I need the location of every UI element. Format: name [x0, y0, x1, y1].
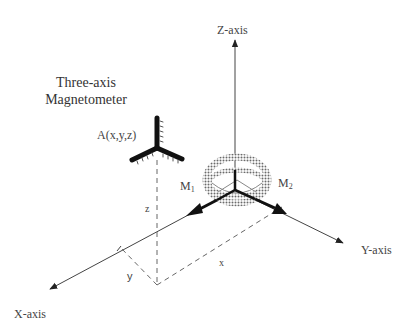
diagram-title: Three-axis Magnetometer	[36, 74, 136, 108]
title-line-1: Three-axis	[36, 74, 136, 91]
m1-arrow	[186, 200, 217, 216]
projection-lines	[121, 160, 282, 285]
m2-label-sub: 2	[289, 182, 293, 191]
m2-label: M2	[278, 177, 293, 191]
x-projection-line	[157, 207, 282, 285]
m1-label-text: M	[180, 179, 191, 193]
m1-label-sub: 1	[191, 185, 195, 194]
m2-arrow	[255, 199, 287, 214]
title-line-2: Magnetometer	[36, 91, 136, 108]
z-coordinate-label: z	[145, 204, 149, 214]
z-axis-label: Z-axis	[217, 24, 248, 36]
tick-mark	[117, 246, 121, 251]
y-coordinate-label: y	[127, 271, 133, 282]
y-axis-label: Y-axis	[361, 244, 392, 256]
m2-label-text: M	[278, 176, 289, 190]
magnetometer-sensor-icon	[132, 118, 182, 164]
diagram-canvas	[0, 0, 420, 335]
x-coordinate-label: x	[219, 258, 224, 268]
sensor-label: A(x,y,z)	[97, 129, 136, 141]
m1-label: M1	[180, 180, 195, 194]
magnet-sphere	[206, 157, 268, 203]
x-axis-label: X-axis	[14, 308, 46, 320]
